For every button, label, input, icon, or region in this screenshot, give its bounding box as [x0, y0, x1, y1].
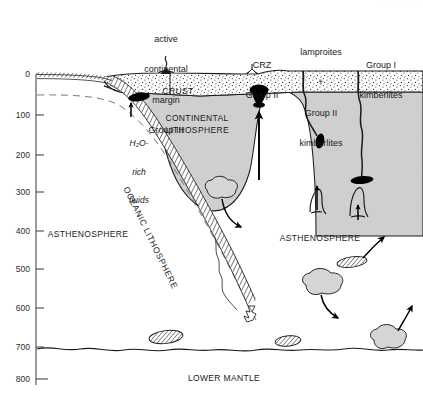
callout-leaders	[165, 56, 252, 70]
axis-tick-400: 400	[4, 226, 30, 236]
eclogite-lenses	[148, 237, 384, 348]
figure-root: · · · · · · · 0 100 200 300 400 500 600 …	[0, 0, 423, 409]
axis-tick-300: 300	[4, 187, 30, 197]
crz-volcano	[247, 69, 257, 74]
axis-tick-700: 700	[4, 342, 30, 352]
axis-tick-0: 0	[4, 69, 30, 79]
cross-section-svg	[0, 0, 423, 409]
axis-tick-200: 200	[4, 150, 30, 160]
axis-tick-100: 100	[4, 110, 30, 120]
scan-artifact: · · · · · · ·	[383, 1, 419, 7]
670km-discontinuity	[37, 348, 423, 351]
depth-axis	[36, 74, 48, 385]
axis-tick-800: 800	[4, 374, 30, 384]
axis-tick-500: 500	[4, 264, 30, 274]
axis-tick-600: 600	[4, 303, 30, 313]
continental-lithosphere-body	[104, 86, 423, 236]
